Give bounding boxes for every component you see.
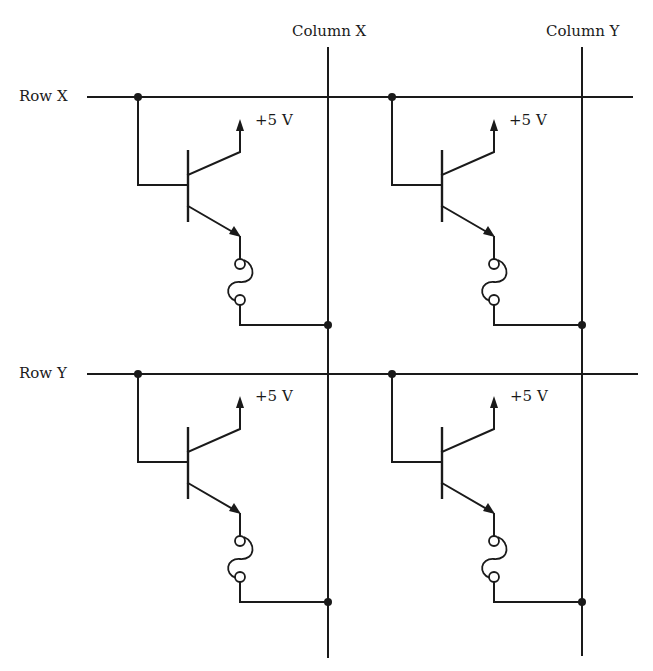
supply-voltage-label: +5 V	[255, 113, 293, 128]
circuit-diagram: Row X Row Y Column X Column Y +5 V +5 V …	[0, 0, 653, 671]
cell-row-y-column-x	[134, 370, 332, 606]
row-y-label: Row Y	[19, 366, 67, 381]
cell-row-y-column-y	[388, 370, 586, 606]
column-x-label: Column X	[292, 24, 366, 39]
column-y-label: Column Y	[546, 24, 620, 39]
supply-voltage-label: +5 V	[510, 389, 548, 404]
supply-voltage-label: +5 V	[255, 389, 293, 404]
cell-row-x-column-y	[388, 93, 586, 329]
row-x-label: Row X	[19, 89, 68, 104]
supply-voltage-label: +5 V	[509, 113, 547, 128]
schematic-drawing	[0, 0, 653, 671]
cell-row-x-column-x	[134, 93, 332, 329]
